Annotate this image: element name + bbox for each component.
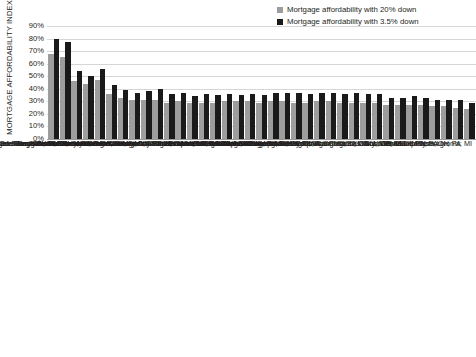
bar-group (106, 26, 118, 139)
plot-canvas (47, 26, 476, 139)
bar-group (187, 26, 199, 139)
y-axis-ticks: 90%80%70%60%50%40%30%20%10%0% (20, 26, 46, 139)
bar-3-5-down (412, 96, 417, 139)
legend-label-20-down: Mortgage affordability with 20% down (287, 5, 416, 15)
x-tick-label: Las Vegas-Henderson-Paradise; NV (187, 140, 199, 355)
x-tick-label: Kansas City; MO-KS (394, 140, 406, 355)
x-tick-label: Philadelphia; PA (429, 140, 441, 355)
bar-3-5-down (169, 94, 174, 139)
bar-group (383, 26, 395, 139)
bar-group (71, 26, 83, 139)
bar-3-5-down (181, 93, 186, 139)
bar-3-5-down (215, 95, 220, 139)
bar-group (221, 26, 233, 139)
x-tick-label: Boston; MA (198, 140, 210, 355)
x-tick-label: Cleveland-Elyria; OH (441, 140, 453, 355)
bar-3-5-down (88, 76, 93, 139)
legend-item-20-down: Mortgage affordability with 20% down (277, 4, 419, 15)
bar-3-5-down (135, 93, 140, 139)
bar-3-5-down (458, 100, 463, 139)
bar-3-5-down (112, 85, 117, 139)
bar-3-5-down (377, 94, 382, 139)
x-tick-label: Minneapolis-St. Paul-Bloomington; MN-WI (371, 140, 383, 355)
x-axis-labels: San Francisco-Redwood City-South San Fra… (47, 140, 476, 355)
x-tick-label: St.Louis; MO-IL (406, 140, 418, 355)
x-tick-label: Phoenix-Mesa-Scottsdale; AZ (244, 140, 256, 355)
bar-3-5-down (273, 93, 278, 139)
x-tick-label: San Antonio-New Braunfels; TX (302, 140, 314, 355)
bar-group (233, 26, 245, 139)
y-tick-label: 20% (29, 110, 44, 118)
x-tick-label: Newark; NJ-PA (221, 140, 233, 355)
bar-3-5-down (400, 98, 405, 139)
bar-group (279, 26, 291, 139)
bar-3-5-down (435, 100, 440, 139)
bar-group (325, 26, 337, 139)
bar-group (360, 26, 372, 139)
bar-group (290, 26, 302, 139)
y-tick-label: 50% (29, 72, 44, 80)
y-tick-label: 80% (29, 35, 44, 43)
bar-3-5-down (319, 93, 324, 139)
legend-swatch-3-5-down (277, 19, 283, 25)
y-axis-title: MORTGAGE AFFORDABILITY INDEX (0, 0, 18, 185)
y-tick-label: 40% (29, 85, 44, 93)
bar-group (152, 26, 164, 139)
bar-3-5-down (192, 96, 197, 139)
bar-group (117, 26, 129, 139)
bar-group (175, 26, 187, 139)
bar-group (163, 26, 175, 139)
x-tick-label: Portland-Vancouver-Hillsboro; OR-WA (163, 140, 175, 355)
bar-group (256, 26, 268, 139)
bar-3-5-down (100, 69, 105, 139)
x-tick-label: Detroit-Dearborn-Livonia; MI (464, 140, 476, 355)
bar-3-5-down (331, 93, 336, 139)
bar-3-5-down (158, 89, 163, 139)
x-tick-label: Seattle-Bellevue-Everett; WA (117, 140, 129, 355)
legend-swatch-20-down (277, 7, 283, 13)
bar-group (129, 26, 141, 139)
x-tick-label: Nassau Country-Suffolk Country; NY (140, 140, 152, 355)
bar-group (337, 26, 349, 139)
bar-group (267, 26, 279, 139)
bar-group (302, 26, 314, 139)
bar-group (371, 26, 383, 139)
x-tick-label: Orlando-Kissimmee-Sanford; FL (233, 140, 245, 355)
bar-3-5-down (227, 94, 232, 139)
bar-3-5-down (262, 95, 267, 139)
x-tick-label: Houston-The Woodlands-Sugar Land; TX (290, 140, 302, 355)
bar-3-5-down (342, 94, 347, 139)
y-tick-label: 90% (29, 22, 44, 30)
bar-3-5-down (146, 91, 151, 139)
chart-legend: Mortgage affordability with 20% down Mor… (277, 4, 419, 27)
bar-group (429, 26, 441, 139)
bar-3-5-down (423, 98, 428, 139)
bar-3-5-down (65, 42, 70, 139)
x-tick-label: Washington-Arlington-Alexandria; DC-VA-M… (256, 140, 268, 355)
bar-group (464, 26, 476, 139)
bar-group (394, 26, 406, 139)
x-tick-label: Atlanta-Sandy Springs-Roswell; GA (360, 140, 372, 355)
bar-group (441, 26, 453, 139)
plot-area: 90%80%70%60%50%40%30%20%10%0% (20, 26, 476, 139)
x-tick-label: Charlotte-Concord-Gastonia;NC-SC (325, 140, 337, 355)
x-tick-label: Oakland-Hayward-Berkeley; CA (83, 140, 95, 355)
bar-3-5-down (296, 93, 301, 139)
x-tick-label: Los Angeles-Long Beach-Glendale; CA (94, 140, 106, 355)
bar-3-5-down (389, 98, 394, 139)
bar-group (418, 26, 430, 139)
x-tick-label: Columbus; OH (383, 140, 395, 355)
x-tick-label: Cincinnati; OH-KY-IN (418, 140, 430, 355)
bar-group (244, 26, 256, 139)
x-tick-label: New York-Jersey City-White Plains; NY-NJ (210, 140, 222, 355)
x-tick-label: San Jose-Sunnyvale-Santa Clara; CA (60, 140, 72, 355)
x-tick-label: San Francisco-Redwood City-South San Fra… (48, 140, 60, 355)
bar-group (210, 26, 222, 139)
bar-3-5-down (77, 71, 82, 139)
y-axis-title-text: MORTGAGE AFFORDABILITY INDEX (5, 0, 14, 137)
x-tick-label: Baltimore-Columbia-Towson; MD (337, 140, 349, 355)
y-tick-label: 30% (29, 97, 44, 105)
x-tick-label: Riverside-San Bernardino-Ontario; CA (129, 140, 141, 355)
bar-3-5-down (308, 94, 313, 139)
y-tick-label: 70% (29, 47, 44, 55)
